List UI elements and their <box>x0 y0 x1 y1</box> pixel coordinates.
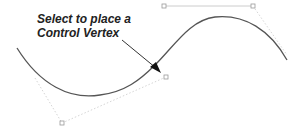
pointer-arrow-shaft <box>122 40 156 68</box>
cv-bottom-left[interactable] <box>60 121 64 125</box>
cv-top-right[interactable] <box>251 4 255 8</box>
pointer-arrow-head <box>150 62 161 73</box>
cv-top-left[interactable] <box>162 4 166 8</box>
control-hull <box>35 77 166 123</box>
curve-diagram: Select to place a Control Vertex <box>0 0 301 128</box>
cv-middle[interactable] <box>164 75 168 79</box>
control-hull-right <box>253 6 287 55</box>
annotation-line-2: Control Vertex <box>37 26 121 40</box>
annotation-line-1: Select to place a <box>37 12 131 26</box>
